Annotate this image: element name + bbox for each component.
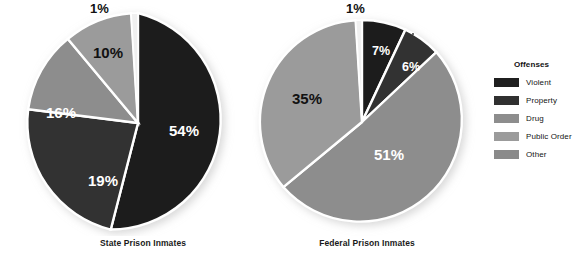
legend-swatch-violent-icon — [494, 78, 519, 87]
legend-swatch-public-order-icon — [494, 132, 519, 141]
federal-label-violent: 7% — [372, 44, 390, 58]
legend-swatch-drug-icon — [494, 114, 519, 123]
state-label-violent: 54% — [169, 122, 199, 139]
state-prison-caption: State Prison Inmates — [8, 238, 278, 248]
legend-label-drug: Drug — [526, 114, 544, 123]
legend-label-property: Property — [526, 96, 557, 105]
state-label-other-outside: 1% — [90, 1, 109, 16]
legend-label-violent: Violent — [526, 78, 551, 87]
state-prison-pie-block: 54% 19% 16% 10% 1% State Prison Inmates — [8, 6, 278, 256]
legend-swatch-property-icon — [494, 96, 519, 105]
state-label-property: 19% — [88, 172, 118, 189]
legend-item-other: Other — [494, 148, 580, 160]
state-label-drug: 16% — [46, 104, 76, 121]
federal-prison-pie-svg: 7% 6% 51% 35% — [252, 6, 482, 236]
federal-prison-pie-block: 7% 6% 51% 35% Federal Prison Inmates — [252, 6, 482, 256]
legend-swatch-other-icon — [494, 150, 519, 159]
state-label-public-order: 10% — [93, 44, 123, 61]
state-prison-pie-svg: 54% 19% 16% 10% 1% — [8, 6, 278, 236]
federal-label-property: 6% — [402, 60, 420, 74]
legend-item-property: Property — [494, 94, 580, 106]
federal-prison-caption: Federal Prison Inmates — [252, 238, 482, 248]
legend: Offenses Violent Property Drug Public Or… — [494, 60, 580, 166]
legend-label-public-order: Public Order — [526, 132, 572, 141]
legend-label-other: Other — [526, 150, 547, 159]
federal-label-other-outside: 1% — [346, 1, 365, 16]
legend-item-drug: Drug — [494, 112, 580, 124]
legend-item-violent: Violent — [494, 76, 580, 88]
federal-pie-slices — [260, 20, 462, 222]
federal-label-drug: 51% — [374, 146, 404, 163]
state-label-other: 1% — [119, 6, 137, 8]
scan-artifact-dot — [412, 33, 414, 35]
pie-chart-figure: 54% 19% 16% 10% 1% State Prison Inmates … — [0, 0, 580, 260]
federal-label-public-order: 35% — [292, 90, 322, 107]
legend-item-public-order: Public Order — [494, 130, 580, 142]
legend-title: Offenses — [514, 60, 580, 69]
